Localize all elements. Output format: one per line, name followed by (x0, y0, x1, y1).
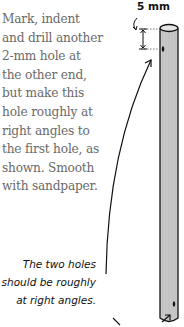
top-hole-icon (162, 46, 165, 52)
note-text: The two holes should be roughly at right… (0, 255, 96, 309)
dimension-marker-icon (133, 18, 162, 49)
bottom-hole-icon (173, 301, 175, 307)
note-line: at right angles. (0, 291, 96, 309)
dowel-icon (160, 25, 178, 322)
pointer-arrow-icon (106, 60, 151, 274)
note-pointer-icon (113, 318, 120, 325)
note-line: The two holes (0, 255, 96, 273)
note-line: should be roughly (0, 273, 96, 291)
